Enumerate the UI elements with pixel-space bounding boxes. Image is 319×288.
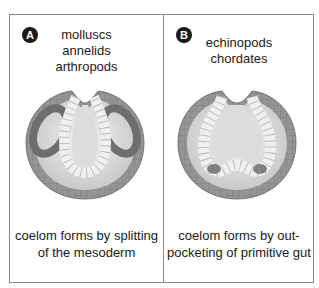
caption-b: coelom forms by out- pocketing of primit… bbox=[164, 227, 314, 261]
caption-line: coelom forms by out- bbox=[164, 227, 314, 244]
caption-line: of the mesoderm bbox=[10, 244, 163, 261]
group-label: chordates bbox=[164, 51, 314, 67]
organism-groups-a: molluscs annelids arthropods bbox=[10, 27, 163, 75]
group-label: echinopods bbox=[164, 35, 314, 51]
embryo-illustration-enterocoely bbox=[172, 81, 302, 203]
group-label: annelids bbox=[10, 43, 163, 59]
embryo-illustration-schizocoely bbox=[20, 81, 150, 203]
organism-groups-b: echinopods chordates bbox=[164, 35, 314, 67]
group-label: arthropods bbox=[10, 59, 163, 75]
caption-line: coelom forms by splitting bbox=[10, 227, 163, 244]
panel-a-schizocoely: A molluscs annelids arthropods coel bbox=[10, 15, 163, 282]
caption-a: coelom forms by splitting of the mesoder… bbox=[10, 227, 163, 261]
caption-line: pocketing of primitive gut bbox=[164, 244, 314, 261]
group-label: molluscs bbox=[10, 27, 163, 43]
panel-b-enterocoely: B echinopods chordates coelom forms by bbox=[164, 15, 314, 282]
